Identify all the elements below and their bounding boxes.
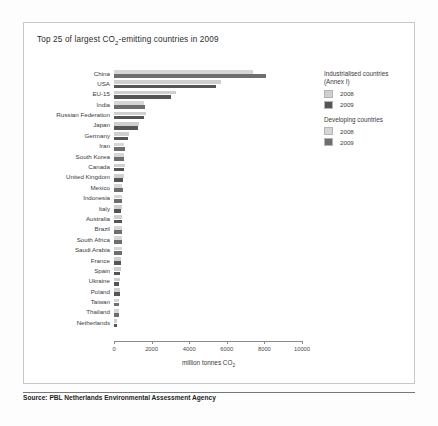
legend-subheading: (Annex I) (324, 78, 419, 86)
plot-area: ChinaUSAEU-15IndiaRussian FederationJapa… (114, 69, 302, 341)
bar-2008 (114, 278, 120, 282)
category-label: India (97, 100, 110, 110)
bar-pair (114, 184, 302, 193)
bar-pair (114, 257, 302, 266)
bar-2008 (114, 299, 119, 303)
x-axis-title-subscript: 2 (232, 363, 235, 368)
bar-2008 (114, 122, 139, 126)
category-label: Russian Federation (56, 110, 110, 120)
bar-row: Netherlands (114, 318, 302, 328)
legend-label: 2009 (340, 101, 354, 108)
legend-item[interactable]: 2009 (324, 101, 419, 109)
bar-pair (114, 225, 302, 234)
legend-group: Industrialised countries(Annex I)2008200… (324, 70, 419, 109)
chart-title-suffix: -emitting countries in 2009 (119, 35, 219, 44)
bar-row: Taiwan (114, 298, 302, 308)
bar-row: USA (114, 79, 302, 89)
category-label: United Kingdom (66, 172, 110, 182)
category-label: South Korea (76, 152, 110, 162)
bar-row: Germany (114, 131, 302, 141)
legend-swatch (324, 138, 333, 146)
bar-2008 (114, 112, 146, 116)
bar-pair (114, 80, 302, 89)
bar-row: China (114, 69, 302, 79)
bar-2009 (114, 303, 119, 307)
bar-2008 (114, 226, 122, 230)
bar-2008 (114, 257, 121, 261)
legend-item[interactable]: 2008 (324, 90, 419, 98)
category-label: Saudi Arabia (75, 245, 110, 255)
category-label: Japan (93, 120, 110, 130)
bar-pair (114, 236, 302, 245)
category-label: Iran (99, 141, 110, 151)
bar-2009 (114, 147, 125, 151)
category-label: Canada (88, 162, 110, 172)
category-label: Taiwan (91, 297, 110, 307)
category-label: Germany (85, 131, 110, 141)
bar-row: Brazil (114, 225, 302, 235)
bar-pair (114, 174, 302, 183)
x-tick-label: 10000 (294, 346, 310, 352)
x-tick (302, 341, 303, 344)
legend-label: 2008 (340, 90, 354, 97)
legend-heading: Industrialised countries (324, 70, 419, 78)
category-label: Thailand (86, 307, 110, 317)
bar-2009 (114, 74, 266, 78)
bar-row: Russian Federation (114, 111, 302, 121)
bar-2008 (114, 195, 122, 199)
legend: Industrialised countries(Annex I)2008200… (324, 70, 419, 153)
bar-2009 (114, 116, 144, 120)
x-tick (114, 341, 115, 344)
bar-2008 (114, 309, 119, 313)
bar-row: Canada (114, 163, 302, 173)
bar-row: Indonesia (114, 194, 302, 204)
x-axis: 0200040006000800010000 (114, 341, 302, 342)
bar-row: Spain (114, 266, 302, 276)
bar-2008 (114, 143, 124, 147)
bar-pair (114, 194, 302, 203)
bar-pair (114, 288, 302, 297)
bar-pair (114, 205, 302, 214)
legend-group: Developing countries20082009 (324, 116, 419, 146)
category-label: China (94, 69, 110, 79)
bar-2008 (114, 164, 125, 168)
category-label: Brazil (95, 224, 110, 234)
chart-title: Top 25 of largest CO2-emitting countries… (37, 35, 219, 46)
bar-2008 (114, 153, 124, 157)
bar-row: Mexico (114, 183, 302, 193)
legend-swatch (324, 90, 333, 98)
bar-row: Thailand (114, 308, 302, 318)
legend-heading: Developing countries (324, 116, 419, 124)
bar-2009 (114, 272, 120, 276)
bar-2009 (114, 95, 171, 99)
bar-2008 (114, 132, 129, 136)
legend-item[interactable]: 2009 (324, 138, 419, 146)
x-tick-label: 0 (112, 346, 115, 352)
category-label: France (91, 256, 110, 266)
bar-pair (114, 309, 302, 318)
x-tick-label: 6000 (220, 346, 233, 352)
legend-item[interactable]: 2008 (324, 127, 419, 135)
category-label: Netherlands (77, 318, 110, 328)
bar-row: Saudi Arabia (114, 246, 302, 256)
bar-row: United Kingdom (114, 173, 302, 183)
legend-swatch (324, 101, 333, 109)
x-axis-title: million tonnes CO2 (182, 359, 235, 368)
bar-2009 (114, 230, 122, 234)
bar-2009 (114, 126, 138, 130)
chart-panel: Top 25 of largest CO2-emitting countries… (23, 22, 415, 384)
bar-pair (114, 111, 302, 120)
x-tick (264, 341, 265, 344)
bar-2009 (114, 168, 124, 172)
bar-2009 (114, 188, 123, 192)
x-tick (152, 341, 153, 344)
x-tick (189, 341, 190, 344)
category-label: Poland (91, 287, 110, 297)
x-tick-label: 2000 (145, 346, 158, 352)
bar-2008 (114, 184, 122, 188)
bar-2009 (114, 220, 122, 224)
category-label: Mexico (90, 183, 110, 193)
bar-row: France (114, 256, 302, 266)
bar-pair (114, 277, 302, 286)
bar-2008 (114, 267, 121, 271)
